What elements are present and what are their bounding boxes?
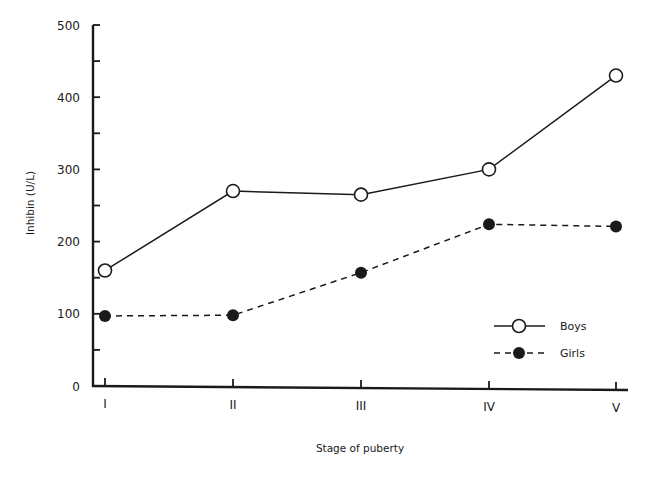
legend-label: Girls	[560, 347, 585, 360]
legend: BoysGirls	[494, 320, 587, 361]
legend-item-boys: Boys	[494, 320, 587, 334]
x-tick-label: II	[229, 398, 236, 412]
x-tick-label: I	[103, 397, 107, 411]
x-axis-title: Stage of puberty	[316, 442, 404, 454]
filled-circle-marker	[355, 267, 367, 279]
filled-circle-marker	[227, 309, 239, 321]
y-tick-label: 500	[57, 19, 80, 33]
series-girls	[99, 218, 622, 322]
legend-label: Boys	[560, 320, 587, 333]
y-tick-label: 300	[57, 163, 80, 177]
y-axis: 0100200300400500	[57, 19, 100, 394]
y-tick-label: 400	[57, 91, 80, 105]
y-tick-label: 200	[57, 235, 80, 249]
line-chart: 0100200300400500 IIIIIIIVV Inhibin (U/L)…	[0, 0, 648, 477]
open-circle-marker	[227, 185, 240, 198]
plot-area	[99, 69, 623, 322]
filled-circle-marker	[483, 218, 495, 230]
open-circle-icon	[513, 320, 526, 333]
series-line	[105, 76, 616, 271]
y-tick-label: 0	[72, 380, 80, 394]
x-axis: IIIIIIIVV	[92, 378, 628, 415]
open-circle-marker	[355, 188, 368, 201]
series-boys	[99, 69, 623, 277]
open-circle-marker	[610, 69, 623, 82]
filled-circle-icon	[513, 347, 525, 359]
x-tick-label: V	[612, 401, 621, 415]
y-tick-label: 100	[57, 307, 80, 321]
x-axis-line	[92, 386, 628, 390]
x-tick-label: III	[356, 399, 367, 413]
open-circle-marker	[99, 264, 112, 277]
legend-item-girls: Girls	[494, 347, 585, 360]
filled-circle-marker	[610, 220, 622, 232]
filled-circle-marker	[99, 310, 111, 322]
x-tick-label: IV	[483, 400, 496, 414]
open-circle-marker	[483, 163, 496, 176]
y-axis-title: Inhibin (U/L)	[24, 171, 36, 235]
